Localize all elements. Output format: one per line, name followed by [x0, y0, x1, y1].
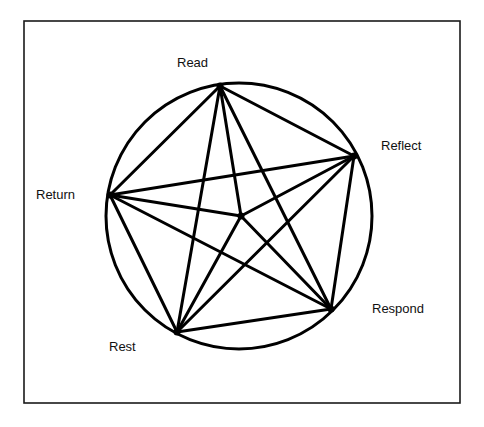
- node-center: [238, 213, 245, 220]
- label-respond: Respond: [372, 301, 424, 316]
- label-rest: Rest: [109, 339, 136, 354]
- node-respond: [328, 306, 335, 313]
- node-return: [107, 192, 114, 199]
- node-read: [217, 83, 224, 90]
- edge-rest-return: [110, 195, 177, 332]
- node-rest: [174, 329, 181, 336]
- edges-group: [110, 86, 354, 332]
- labels-group: ReadReflectRespondRestReturn: [36, 55, 424, 354]
- node-reflect: [351, 153, 358, 160]
- label-return: Return: [36, 187, 75, 202]
- label-read: Read: [177, 55, 208, 70]
- label-reflect: Reflect: [381, 138, 422, 153]
- edge-respond-center: [241, 216, 331, 309]
- diagram-canvas: ReadReflectRespondRestReturn: [0, 0, 484, 427]
- diagram-frame: [24, 21, 460, 403]
